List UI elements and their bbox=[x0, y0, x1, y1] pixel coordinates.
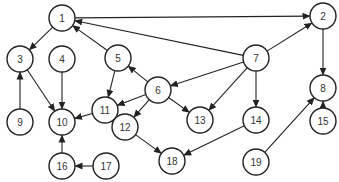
node-19: 19 bbox=[243, 149, 269, 175]
node-17: 17 bbox=[93, 153, 119, 179]
edge-7-to-1 bbox=[75, 21, 243, 56]
edge-7-to-13 bbox=[209, 68, 247, 110]
edge-1-to-2 bbox=[75, 16, 310, 18]
node-label: 14 bbox=[250, 115, 262, 126]
node-label: 18 bbox=[166, 156, 178, 167]
node-4: 4 bbox=[49, 46, 75, 72]
node-13: 13 bbox=[187, 107, 213, 133]
node-2: 2 bbox=[310, 3, 336, 29]
edge-19-to-8 bbox=[265, 98, 314, 152]
edge-7-to-2 bbox=[267, 23, 312, 51]
edge-6-to-12 bbox=[134, 100, 149, 117]
edge-5-to-1 bbox=[73, 26, 107, 51]
node-1: 1 bbox=[49, 5, 75, 31]
edge-5-to-11 bbox=[108, 71, 115, 97]
directed-graph-diagram: 12345678910111213141516171819 bbox=[0, 0, 339, 182]
edge-12-to-18 bbox=[136, 135, 162, 153]
node-label: 7 bbox=[253, 53, 259, 64]
node-label: 11 bbox=[100, 105, 111, 116]
edge-6-to-11 bbox=[118, 95, 146, 106]
node-label: 10 bbox=[56, 117, 68, 128]
node-15: 15 bbox=[310, 108, 336, 134]
node-9: 9 bbox=[7, 109, 33, 135]
nodes-layer: 12345678910111213141516171819 bbox=[7, 3, 336, 179]
node-7: 7 bbox=[243, 45, 269, 71]
node-label: 16 bbox=[56, 161, 68, 172]
node-label: 6 bbox=[155, 85, 161, 96]
node-label: 12 bbox=[119, 122, 131, 133]
node-label: 13 bbox=[194, 115, 206, 126]
node-6: 6 bbox=[145, 77, 171, 103]
edge-1-to-3 bbox=[30, 27, 53, 49]
node-label: 2 bbox=[320, 11, 326, 22]
node-12: 12 bbox=[112, 114, 138, 140]
edge-7-to-6 bbox=[171, 62, 244, 86]
node-label: 1 bbox=[59, 13, 65, 24]
node-16: 16 bbox=[49, 153, 75, 179]
node-14: 14 bbox=[243, 107, 269, 133]
edge-3-to-10 bbox=[27, 70, 54, 111]
node-18: 18 bbox=[159, 148, 185, 174]
node-label: 4 bbox=[59, 54, 65, 65]
node-label: 5 bbox=[115, 53, 121, 64]
node-label: 8 bbox=[320, 83, 326, 94]
edge-6-to-13 bbox=[169, 98, 189, 113]
node-label: 17 bbox=[100, 161, 112, 172]
node-8: 8 bbox=[310, 75, 336, 101]
node-label: 3 bbox=[17, 54, 23, 65]
node-label: 9 bbox=[17, 117, 23, 128]
edge-6-to-5 bbox=[129, 66, 148, 81]
node-10: 10 bbox=[49, 109, 75, 135]
node-label: 15 bbox=[317, 116, 329, 127]
node-3: 3 bbox=[7, 46, 33, 72]
node-label: 19 bbox=[250, 157, 262, 168]
edge-11-to-10 bbox=[75, 113, 92, 118]
node-5: 5 bbox=[105, 45, 131, 71]
